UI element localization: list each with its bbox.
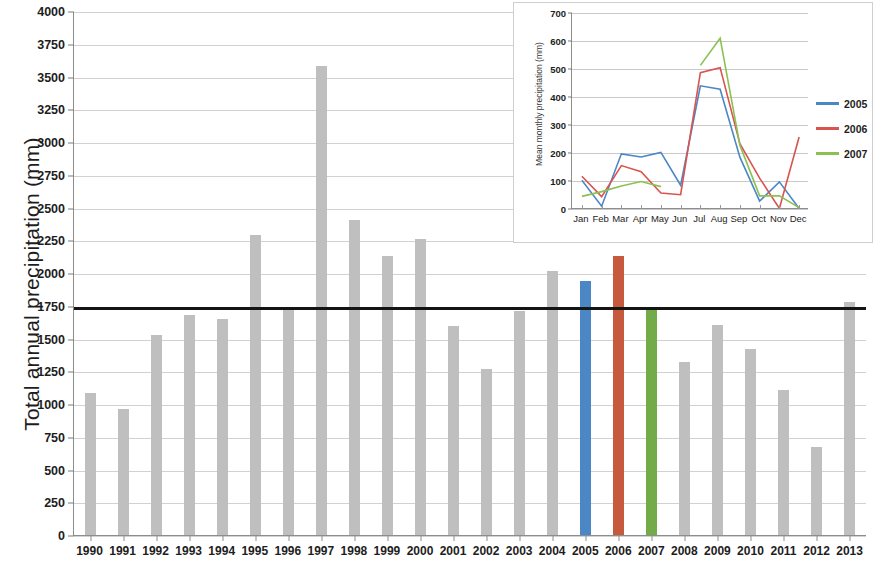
legend-label: 2006 [844, 123, 867, 135]
main-y-tick-label: 1000 [37, 398, 74, 412]
main-y-tick-label: 2000 [37, 267, 74, 281]
inset-x-tick-label: Mar [611, 209, 631, 224]
bar-1998 [349, 220, 360, 536]
main-x-tick-label: 1991 [106, 536, 139, 558]
bar-2006 [613, 256, 624, 536]
main-y-tick-label: 250 [44, 496, 74, 510]
bar-2005 [580, 281, 591, 536]
main-x-tick-label: 1995 [238, 536, 271, 558]
inset-y-tick-label: 300 [550, 120, 572, 131]
main-x-tick-label: 1999 [370, 536, 403, 558]
bar-2001 [448, 326, 459, 536]
main-x-tick-label: 2010 [734, 536, 767, 558]
bar-slot [305, 12, 338, 536]
main-y-tick-label: 4000 [37, 5, 74, 19]
bar-slot [404, 12, 437, 536]
main-x-tick-label: 1997 [304, 536, 337, 558]
legend-item-2006: 2006 [816, 116, 867, 141]
bar-2010 [745, 349, 756, 536]
inset-x-tick-label: Jul [690, 209, 710, 224]
main-y-tick-label: 2750 [37, 169, 74, 183]
bar-1996 [283, 307, 294, 536]
inset-y-tick-label: 500 [550, 64, 572, 75]
bar-2012 [811, 447, 822, 536]
inset-legend: 200520062007 [816, 91, 867, 166]
inset-x-tick-label: Feb [591, 209, 611, 224]
inset-x-tick-label: Dec [788, 209, 808, 224]
inset-x-tick-label: Apr [630, 209, 650, 224]
bar-1994 [217, 319, 228, 536]
main-x-tick-label: 1998 [337, 536, 370, 558]
main-x-tick-label: 2000 [403, 536, 436, 558]
bar-slot [173, 12, 206, 536]
bar-2004 [547, 271, 558, 536]
legend-item-2007: 2007 [816, 141, 867, 166]
main-x-tick-label: 2012 [800, 536, 833, 558]
main-y-tick-label: 3750 [37, 38, 74, 52]
bar-1993 [184, 315, 195, 536]
inset-x-tick-label: Jun [670, 209, 690, 224]
bar-1997 [316, 66, 327, 536]
main-x-tick-label: 2008 [668, 536, 701, 558]
legend-swatch-icon [816, 102, 839, 105]
main-x-tick-label: 1990 [73, 536, 106, 558]
inset-x-tick-label: Nov [769, 209, 789, 224]
bar-slot [206, 12, 239, 536]
main-x-tick-label: 1996 [271, 536, 304, 558]
main-y-tick-label: 2250 [37, 234, 74, 248]
bar-slot [239, 12, 272, 536]
main-x-tick-label: 2009 [701, 536, 734, 558]
main-y-tick-label: 3500 [37, 71, 74, 85]
main-x-tick-label: 2006 [602, 536, 635, 558]
bar-1999 [382, 256, 393, 536]
inset-x-tick-label: Oct [749, 209, 769, 224]
legend-label: 2007 [844, 148, 867, 160]
inset-x-tick-label: May [650, 209, 670, 224]
inset-x-tick-label: Sep [729, 209, 749, 224]
inset-x-axis-labels: JanFebMarAprMayJunJulAugSepOctNovDec [571, 209, 808, 224]
main-x-tick-label: 1992 [139, 536, 172, 558]
bar-1995 [250, 235, 261, 536]
bar-1992 [151, 335, 162, 536]
main-x-axis-labels: 1990199119921993199419951996199719981999… [73, 536, 866, 558]
bar-2002 [481, 369, 492, 536]
bar-2009 [712, 325, 723, 536]
bar-2007 [646, 307, 657, 536]
bar-2003 [514, 311, 525, 536]
inset-series-lines [572, 13, 809, 209]
inset-y-tick-label: 600 [550, 36, 572, 47]
inset-x-tick-label: Aug [709, 209, 729, 224]
main-x-tick-label: 2005 [569, 536, 602, 558]
main-y-tick-label: 1250 [37, 365, 74, 379]
bar-1990 [85, 393, 96, 536]
main-x-tick-label: 1993 [172, 536, 205, 558]
inset-line-2007 [700, 38, 799, 207]
inset-y-tick-label: 400 [550, 92, 572, 103]
main-y-tick-label: 3250 [37, 103, 74, 117]
main-x-tick-label: 2001 [437, 536, 470, 558]
main-y-tick-label: 3000 [37, 136, 74, 150]
main-x-tick-label: 1994 [205, 536, 238, 558]
main-x-tick-label: 2011 [767, 536, 800, 558]
bar-slot [74, 12, 107, 536]
bar-slot [140, 12, 173, 536]
main-x-tick-label: 2004 [536, 536, 569, 558]
bar-slot [470, 12, 503, 536]
threshold-reference-line [74, 307, 866, 310]
inset-line-chart: Mean monthly precipitation (mm) 01002003… [513, 2, 873, 243]
main-y-tick-label: 500 [44, 464, 74, 478]
main-y-tick-label: 2500 [37, 202, 74, 216]
inset-y-tick-label: 200 [550, 148, 572, 159]
inset-y-tick-label: 700 [550, 8, 572, 19]
bar-1991 [118, 409, 129, 536]
inset-x-tick-label: Jan [571, 209, 591, 224]
legend-swatch-icon [816, 127, 839, 130]
main-y-tick-label: 1750 [37, 300, 74, 314]
bar-slot [371, 12, 404, 536]
main-y-tick-label: 750 [44, 431, 74, 445]
inset-y-tick-label: 100 [550, 176, 572, 187]
main-x-tick-label: 2007 [635, 536, 668, 558]
main-y-tick-label: 1500 [37, 333, 74, 347]
bar-2008 [679, 362, 690, 536]
main-x-tick-label: 2013 [833, 536, 866, 558]
